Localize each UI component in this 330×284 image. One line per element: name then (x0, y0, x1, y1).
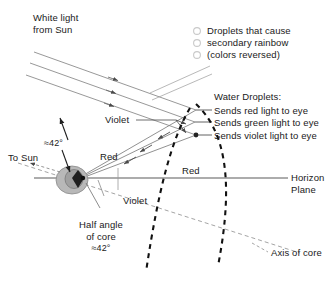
secondary-ray-1 (150, 66, 210, 93)
white-light-label-line2: from Sun (33, 24, 72, 36)
to-sun-arrow (30, 163, 60, 172)
angle-42-arrow-up (60, 118, 68, 140)
angle-42-upper-label: ≈42° (44, 138, 63, 149)
axis-of-core-label: Axis of core (271, 247, 322, 259)
sends-violet-label: Sends violet light to eye (214, 130, 317, 142)
secondary-droplet-1 (194, 28, 201, 35)
sun-ray-3-arrow (104, 103, 114, 107)
horizon-plane-label-line1: Horizon (291, 172, 324, 184)
to-sun-label: To Sun (8, 152, 38, 164)
secondary-rainbow-rays (150, 66, 212, 100)
sun-ray-1 (34, 52, 196, 110)
violet-upper-label: Violet (105, 114, 129, 126)
observer-eye (56, 166, 88, 194)
half-angle-label-line2: of core (62, 231, 140, 243)
rainbow-diagram: White light from Sun Droplets that cause… (0, 0, 330, 284)
secondary-droplets-label-line3: (colors reversed) (207, 49, 280, 61)
sun-ray-2-arrow (106, 90, 116, 94)
secondary-droplet-markers (194, 28, 201, 59)
secondary-droplet-3 (194, 52, 201, 59)
violet-upper-leader (136, 120, 186, 133)
secondary-ray-2 (152, 74, 212, 100)
violet-lower-label: Violet (123, 195, 147, 207)
violet-droplet-dot (194, 133, 199, 138)
ray-violet-arrow (124, 157, 136, 164)
white-light-label-line1: White light (33, 12, 78, 24)
half-angle-label-line3: ≈42° (62, 243, 140, 254)
secondary-droplets-label-line1: Droplets that cause (207, 25, 291, 37)
observer-vertex (81, 176, 85, 180)
red-lower-label: Red (182, 165, 200, 177)
to-sun-direction (30, 163, 60, 172)
water-droplets-heading: Water Droplets: (214, 91, 281, 103)
axis-of-core-label-leader (252, 243, 268, 252)
sends-green-label: Sends green light to eye (214, 117, 319, 129)
horizon-plane-label-line2: Plane (291, 184, 316, 196)
secondary-droplets-label-line2: secondary rainbow (207, 37, 288, 49)
half-angle-label-line1: Half angle (62, 219, 140, 231)
rainbow-arc-inner (146, 108, 190, 272)
secondary-droplet-2 (194, 40, 201, 47)
red-upper-label: Red (100, 151, 118, 163)
droplet-label-leaders (194, 110, 212, 137)
half-angle-tick (98, 180, 104, 196)
sends-red-label: Sends red light to eye (214, 105, 308, 117)
ray-green-to-eye (82, 122, 195, 177)
